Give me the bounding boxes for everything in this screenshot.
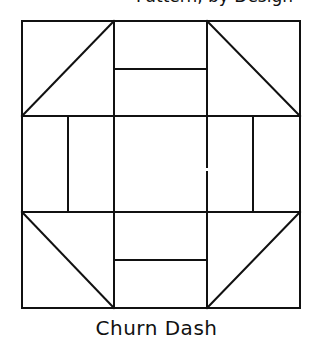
diagonal-bottom-right	[207, 212, 300, 308]
diagonal-top-left	[22, 21, 114, 116]
diagram-caption: Churn Dash	[0, 316, 313, 340]
churn-dash-quilt-block	[0, 0, 313, 349]
diagonal-top-right	[207, 21, 300, 116]
diagonal-bottom-left	[22, 212, 114, 308]
outer-border	[22, 21, 300, 308]
